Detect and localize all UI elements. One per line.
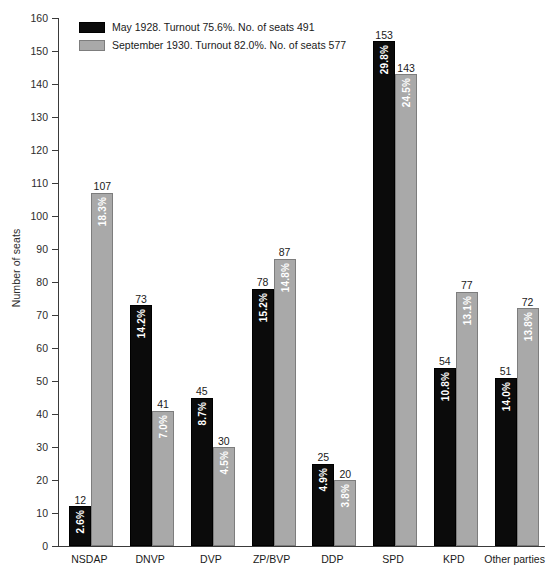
- bar-value-label: 77: [461, 280, 473, 291]
- bar-percent-label: 7.0%: [158, 415, 169, 439]
- x-axis-line: [58, 546, 545, 547]
- bar-percent-label: 24.5%: [401, 78, 412, 107]
- legend-swatch: [79, 40, 105, 51]
- chart-legend: May 1928. Turnout 75.6%. No. of seats 49…: [79, 20, 346, 56]
- bar: 7815.2%: [252, 289, 274, 546]
- bar-value-label: 30: [218, 436, 230, 447]
- bar: 7314.2%: [130, 305, 152, 546]
- bar-percent-label: 18.3%: [97, 197, 108, 226]
- bar-percent-label: 8.7%: [196, 402, 207, 426]
- bar-percent-label: 4.9%: [318, 468, 329, 492]
- bar-percent-label: 14.0%: [500, 382, 511, 411]
- x-axis-category-label: Other parties: [474, 553, 553, 565]
- bar-value-label: 107: [94, 181, 112, 192]
- bar-percent-label: 15.2%: [257, 293, 268, 322]
- legend-item: September 1930. Turnout 82.0%. No. of se…: [79, 38, 346, 53]
- bar-value-label: 73: [135, 294, 147, 305]
- bar-value-label: 143: [397, 63, 415, 74]
- bar-percent-label: 3.8%: [340, 484, 351, 508]
- bar-percent-label: 14.2%: [136, 309, 147, 338]
- bar-percent-label: 29.8%: [379, 45, 390, 74]
- bar-value-label: 87: [279, 247, 291, 258]
- bar: 304.5%: [213, 447, 235, 546]
- bar-percent-label: 13.1%: [461, 296, 472, 325]
- bar: 15329.8%: [373, 41, 395, 546]
- bar-value-label: 51: [500, 366, 512, 377]
- bar-value-label: 78: [257, 277, 269, 288]
- bar: 14324.5%: [395, 74, 417, 546]
- bar: 458.7%: [191, 398, 213, 547]
- bar: 203.8%: [334, 480, 356, 546]
- bar-chart: Number of seats 010203040506070809010011…: [0, 0, 553, 576]
- bar-value-label: 41: [157, 399, 169, 410]
- legend-swatch: [79, 22, 105, 33]
- bar: 7213.8%: [517, 308, 539, 546]
- bar-percent-label: 14.8%: [279, 263, 290, 292]
- bar-value-label: 12: [75, 495, 87, 506]
- bar-value-label: 54: [439, 356, 451, 367]
- bar: 122.6%: [69, 506, 91, 546]
- bar-value-label: 72: [522, 297, 534, 308]
- bar: 5114.0%: [495, 378, 517, 546]
- bar: 5410.8%: [434, 368, 456, 546]
- bar: 254.9%: [312, 464, 334, 547]
- bar: 7713.1%: [456, 292, 478, 546]
- y-axis-title: Number of seats: [10, 208, 22, 328]
- bar-value-label: 45: [196, 386, 208, 397]
- bar-percent-label: 2.6%: [75, 510, 86, 534]
- bar-percent-label: 4.5%: [218, 451, 229, 475]
- legend-label: May 1928. Turnout 75.6%. No. of seats 49…: [112, 22, 315, 33]
- bar-value-label: 25: [318, 452, 330, 463]
- legend-label: September 1930. Turnout 82.0%. No. of se…: [112, 40, 346, 51]
- bar: 8714.8%: [274, 259, 296, 546]
- bar-value-label: 153: [375, 30, 393, 41]
- bar: 417.0%: [152, 411, 174, 546]
- bar-percent-label: 10.8%: [439, 372, 450, 401]
- bar-percent-label: 13.8%: [522, 312, 533, 341]
- legend-item: May 1928. Turnout 75.6%. No. of seats 49…: [79, 20, 346, 35]
- bar-value-label: 20: [340, 469, 352, 480]
- plot-area: 122.6%10718.3%7314.2%417.0%458.7%304.5%7…: [59, 18, 545, 546]
- bar: 10718.3%: [91, 193, 113, 546]
